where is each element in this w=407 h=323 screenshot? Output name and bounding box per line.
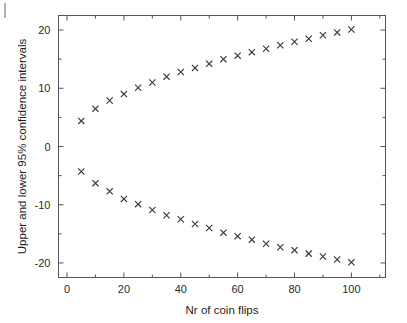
- x-tick-label: 0: [64, 283, 70, 295]
- data-point-marker: [249, 49, 255, 55]
- data-point-marker: [149, 79, 155, 85]
- data-point-marker: [135, 201, 141, 207]
- data-point-marker: [348, 259, 354, 265]
- y-tick-label: -20: [35, 257, 51, 269]
- data-point-marker: [192, 65, 198, 71]
- data-point-marker: [263, 46, 269, 52]
- data-point-marker: [121, 91, 127, 97]
- data-point-marker: [277, 42, 283, 48]
- data-point-marker: [334, 29, 340, 35]
- x-tick-label: 40: [175, 283, 187, 295]
- data-point-marker: [92, 106, 98, 112]
- data-point-marker: [206, 61, 212, 67]
- data-point-marker: [206, 225, 212, 231]
- data-point-marker: [277, 244, 283, 250]
- y-axis-title: Upper and lower 95% confidence intervals: [16, 39, 28, 255]
- data-point-marker: [220, 230, 226, 236]
- data-point-marker: [178, 69, 184, 75]
- data-point-marker: [149, 207, 155, 213]
- data-point-marker: [249, 237, 255, 243]
- y-tick-label: 10: [38, 82, 50, 94]
- data-point-marker: [235, 53, 241, 59]
- figure-canvas: 020406080100-20-1001020Nr of coin flipsU…: [0, 0, 407, 323]
- data-point-marker: [263, 241, 269, 247]
- y-tick-label: 20: [38, 24, 50, 36]
- data-point-marker: [163, 74, 169, 80]
- data-point-marker: [121, 196, 127, 202]
- scatter-plot: 020406080100-20-1001020Nr of coin flipsU…: [0, 0, 407, 323]
- data-point-marker: [291, 39, 297, 45]
- x-tick-label: 20: [118, 283, 130, 295]
- data-point-marker: [178, 216, 184, 222]
- series-upper: [78, 26, 354, 124]
- y-tick-label: -10: [35, 199, 51, 211]
- data-point-marker: [320, 253, 326, 259]
- data-point-marker: [107, 188, 113, 194]
- data-point-marker: [235, 233, 241, 239]
- x-tick-label: 100: [342, 283, 360, 295]
- data-point-marker: [306, 36, 312, 42]
- data-point-marker: [78, 168, 84, 174]
- data-point-marker: [220, 56, 226, 62]
- y-tick-label: 0: [44, 141, 50, 153]
- x-axis-title: Nr of coin flips: [186, 304, 259, 316]
- data-point-marker: [107, 97, 113, 103]
- data-point-marker: [92, 180, 98, 186]
- x-tick-label: 60: [232, 283, 244, 295]
- plot-frame: [59, 16, 386, 278]
- data-point-marker: [291, 247, 297, 253]
- data-point-marker: [78, 118, 84, 124]
- series-lower: [78, 168, 354, 265]
- data-point-marker: [334, 256, 340, 262]
- data-point-marker: [163, 212, 169, 218]
- data-point-marker: [306, 251, 312, 257]
- data-point-marker: [135, 85, 141, 91]
- data-point-marker: [320, 32, 326, 38]
- x-tick-label: 80: [288, 283, 300, 295]
- data-point-marker: [192, 221, 198, 227]
- data-point-marker: [348, 26, 354, 32]
